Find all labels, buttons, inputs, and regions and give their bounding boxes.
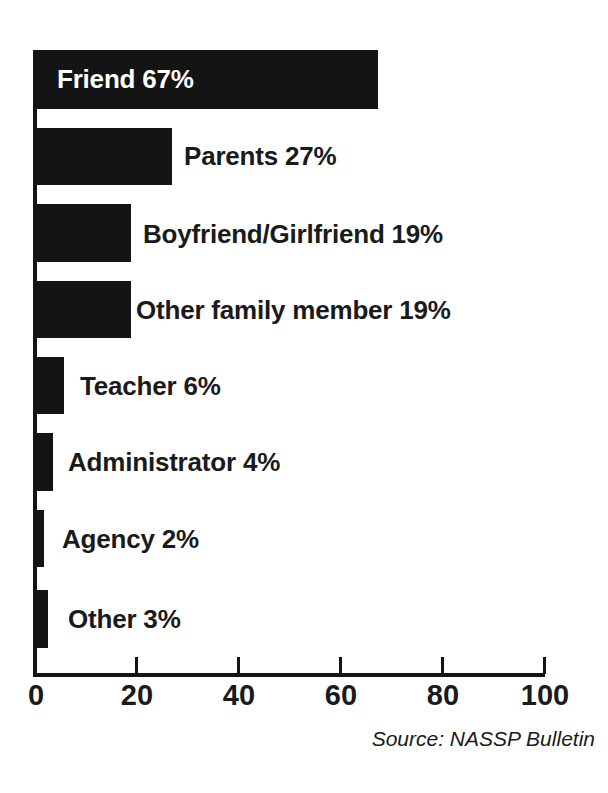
x-axis-tick-20 [135,657,138,674]
x-axis-line [33,673,545,677]
bar-label-teacher: Teacher 6% [80,373,221,399]
x-axis-tick-60 [339,657,342,674]
x-axis-label-80: 80 [427,681,459,710]
plot-area: Friend 67% Parents 27% Boyfriend/Girlfri… [0,0,608,793]
bar-label-other-family-member: Other family member 19% [136,297,451,323]
x-axis-tick-100 [543,657,546,674]
bar-label-boyfriend-girlfriend: Boyfriend/Girlfriend 19% [143,221,443,247]
bar-label-parents: Parents 27% [184,143,336,169]
bar-other-family-member [33,281,131,338]
y-axis-line [33,50,37,677]
source-note: Source: NASSP Bulletin [372,728,595,749]
bar-label-other: Other 3% [68,606,181,632]
x-axis-tick-40 [237,657,240,674]
bar-label-administrator: Administrator 4% [68,449,280,475]
x-axis-label-100: 100 [521,681,569,710]
x-axis-label-0: 0 [28,681,44,710]
x-axis-tick-0 [33,657,36,674]
x-axis-label-20: 20 [121,681,153,710]
x-axis-label-40: 40 [223,681,255,710]
bar-label-agency: Agency 2% [62,526,199,552]
x-axis-label-60: 60 [325,681,357,710]
bar-label-friend: Friend 67% [57,66,194,92]
bar-teacher [33,357,64,414]
x-axis-tick-80 [441,657,444,674]
bar-chart: Friend 67% Parents 27% Boyfriend/Girlfri… [0,0,608,793]
bar-parents [33,128,172,185]
bar-boyfriend-girlfriend [33,204,131,262]
